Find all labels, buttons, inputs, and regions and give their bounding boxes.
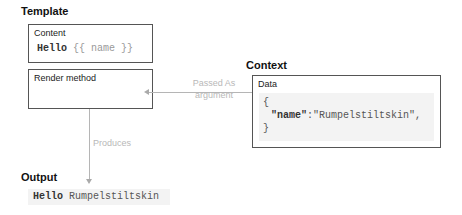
output-value: Rumpelstiltskin — [69, 191, 159, 202]
content-label: Content — [34, 28, 66, 38]
output-hello: Hello — [33, 191, 63, 202]
template-code: Hello {{ name }} — [37, 43, 133, 54]
output-code: Hello Rumpelstiltskin — [28, 189, 170, 205]
arrow-down-icon — [86, 179, 92, 184]
data-key: "name" — [271, 110, 307, 121]
brace-open: { — [259, 96, 434, 109]
code-close-braces: }} — [121, 43, 133, 54]
passed-as-line2: argument — [174, 90, 254, 100]
code-var-name: name — [91, 43, 115, 54]
passed-as-label: Passed As argument — [174, 78, 254, 100]
template-title: Template — [21, 5, 68, 17]
data-label: Data — [258, 79, 277, 89]
render-method-box: Render method — [28, 69, 153, 109]
data-code: { "name":"Rumpelstiltskin", } — [259, 93, 434, 141]
output-title: Output — [21, 171, 57, 183]
data-value: "Rumpelstiltskin", — [313, 110, 421, 121]
data-box: Data { "name":"Rumpelstiltskin", } — [252, 75, 441, 148]
code-open-braces: {{ — [73, 43, 85, 54]
render-method-label: Render method — [34, 73, 96, 83]
content-box: Content Hello {{ name }} — [28, 24, 153, 63]
produces-label: Produces — [93, 138, 131, 148]
produces-arrow-line — [89, 109, 90, 181]
code-hello: Hello — [37, 43, 67, 54]
arrow-left-icon — [144, 89, 149, 95]
brace-close: } — [259, 122, 434, 135]
passed-as-line1: Passed As — [174, 78, 254, 88]
context-title: Context — [246, 59, 287, 71]
data-line: "name":"Rumpelstiltskin", — [259, 109, 434, 122]
